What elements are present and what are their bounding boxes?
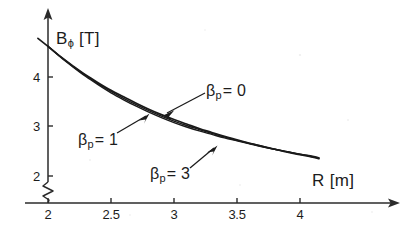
y-tick-label-4: 4 [26,71,40,84]
x-tick-label-3: 3 [171,208,178,221]
beta-subscript-1: p [87,138,93,150]
beta-value-3: = 3 [167,165,190,182]
x-tick-label-3-5: 3.5 [228,208,245,221]
leader-beta-p-0 [167,93,205,113]
x-axis-title-unit: [m] [330,171,355,190]
y-axis-title-symbol: B [56,29,68,48]
chart-figure: Bϕ[T] R[m] 4 3 2 2 2.5 3 3.5 4 βp= 0 βp=… [0,0,408,233]
x-tick-label-2-5: 2.5 [102,208,119,221]
y-axis [43,8,53,203]
x-axis [25,198,400,207]
y-tick-label-3: 3 [26,120,40,133]
beta-symbol-3: β [150,165,159,182]
series-label-beta-p-3: βp= 3 [150,166,190,184]
beta-symbol-0: β [206,82,215,99]
curve-lead-in [38,38,48,46]
beta-symbol-1: β [78,131,87,148]
series-label-beta-p-0: βp= 0 [206,83,246,101]
x-axis-title-symbol: R [312,171,325,190]
x-axis-title: R[m] [312,172,355,189]
series-label-beta-p-1: βp= 1 [78,132,118,150]
beta-value-1: = 1 [95,131,118,148]
y-axis-title: Bϕ[T] [56,30,100,49]
arrowhead-beta-p-3 [207,146,218,156]
leader-beta-p-1 [117,116,146,133]
beta-value-0: = 0 [223,82,246,99]
y-tick-label-2: 2 [26,170,40,183]
beta-subscript-3: p [159,172,165,184]
y-axis-title-unit: [T] [79,29,100,48]
x-tick-label-2: 2 [45,208,52,221]
beta-subscript-0: p [215,89,221,101]
x-tick-label-4: 4 [297,208,304,221]
y-axis-title-subscript: ϕ [68,37,74,49]
